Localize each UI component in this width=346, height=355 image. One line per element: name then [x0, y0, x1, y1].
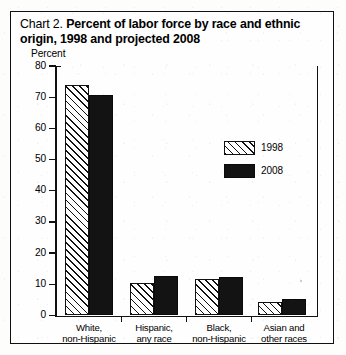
legend-label-2008: 2008 — [261, 165, 283, 176]
legend-label-1998: 1998 — [261, 142, 283, 153]
scanned-page: Chart 2. Percent of labor force by race … — [0, 0, 346, 355]
chart-frame — [10, 11, 334, 344]
legend-swatch-2008 — [224, 164, 255, 178]
legend-swatch-1998 — [224, 141, 255, 155]
chart-title-prefix: Chart 2. — [20, 17, 63, 31]
y-axis-title: Percent — [31, 48, 65, 59]
chart-title: Chart 2. Percent of labor force by race … — [20, 17, 320, 46]
